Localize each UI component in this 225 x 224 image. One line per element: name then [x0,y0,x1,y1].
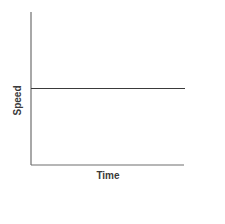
chart: Speed Time [0,0,225,224]
x-axis-label: Time [96,170,120,181]
y-axis-label: Speed [12,85,23,115]
